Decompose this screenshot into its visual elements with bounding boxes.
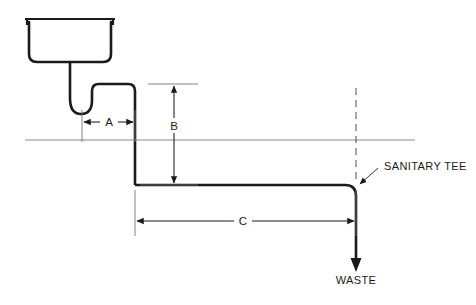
diagram-canvas: A B C SANITARY TEE: [0, 0, 476, 305]
dimension-b: B: [140, 84, 198, 185]
callout-waste: WASTE: [336, 274, 377, 286]
waste-branch: [135, 185, 362, 272]
sanitary-tee-label: SANITARY TEE: [384, 160, 467, 172]
p-trap-assembly: [70, 62, 135, 185]
dimension-a: A: [82, 110, 135, 142]
sanitary-tee-leader-line: [360, 168, 378, 184]
dimension-c: C: [135, 190, 356, 236]
sink-basin-body: [29, 22, 111, 62]
trap-and-drop-pipe: [70, 62, 135, 185]
waste-flow-arrowhead: [351, 258, 362, 272]
dimension-b-label: B: [170, 120, 178, 132]
callout-sanitary-tee: SANITARY TEE: [360, 160, 467, 184]
sink-basin: [25, 19, 115, 62]
waste-label: WASTE: [336, 274, 377, 286]
dimension-a-label: A: [105, 116, 113, 128]
plumbing-diagram: A B C SANITARY TEE: [0, 0, 476, 305]
dimension-c-label: C: [239, 215, 247, 227]
